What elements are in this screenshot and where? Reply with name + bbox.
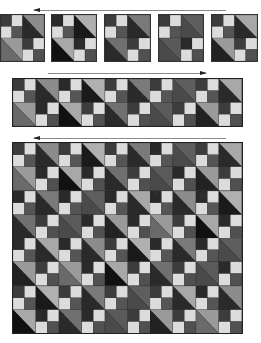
strip-block (13, 79, 59, 126)
arrow-strip (48, 73, 206, 74)
arrowhead-right-icon (200, 71, 207, 75)
quilt-block (196, 286, 242, 334)
strip-block (150, 79, 196, 126)
quilt-block (196, 191, 242, 239)
quilt-block (59, 143, 105, 191)
quilt-block (13, 143, 59, 191)
quilt-block (13, 238, 59, 286)
arrowhead-left-icon (33, 8, 40, 12)
quilt-block (105, 191, 151, 239)
strip-block (59, 79, 105, 126)
quilt-block (13, 191, 59, 239)
quilt-block (59, 238, 105, 286)
arrowhead-left-icon (33, 136, 40, 140)
quilt-block (150, 191, 196, 239)
quilt-block (150, 286, 196, 334)
quilt-block-4 (158, 14, 204, 62)
arrow-quilt (34, 138, 226, 139)
quilt-block-2 (51, 14, 97, 62)
quilt-block-5 (211, 14, 258, 62)
quilt-block (196, 143, 242, 191)
quilt-top (12, 142, 243, 334)
quilt-block (105, 143, 151, 191)
quilt-block (105, 238, 151, 286)
quilt-block (150, 238, 196, 286)
quilt-block-3 (104, 14, 151, 62)
quilt-block (59, 191, 105, 239)
quilt-block (196, 238, 242, 286)
row-strip (12, 78, 243, 127)
quilt-block (150, 143, 196, 191)
quilt-block (59, 286, 105, 334)
quilt-block (13, 286, 59, 334)
strip-block (196, 79, 242, 126)
quilt-block (105, 286, 151, 334)
arrow-row1 (34, 10, 226, 11)
strip-block (105, 79, 151, 126)
quilt-block-1 (0, 14, 45, 62)
